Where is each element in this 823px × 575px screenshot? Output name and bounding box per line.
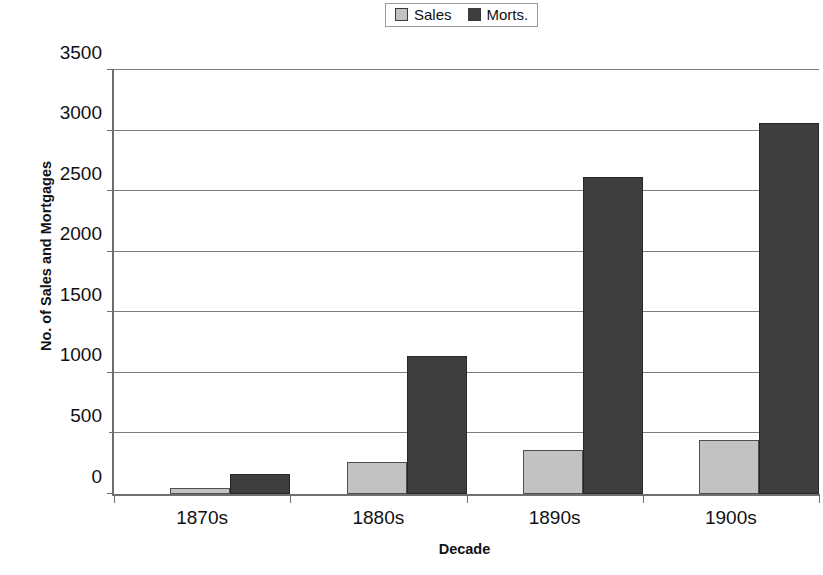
y-tick-mark [107,130,114,131]
y-tick-label: 1500 [60,284,102,303]
bar-pair [699,70,819,494]
x-tick-mark [114,494,115,503]
x-tick-label-1890s: 1890s [529,508,581,527]
bar-pair [523,70,643,494]
bar-sales-1870s [170,488,230,494]
x-tick-mark [643,494,644,503]
y-tick-label: 2500 [60,163,102,182]
dark-gray-swatch-icon [468,8,481,21]
x-tick-label-1870s: 1870s [176,508,228,527]
bar-pair [170,70,290,494]
legend-entry-sales: Sales [395,7,452,22]
y-tick-label: 0 [91,466,102,485]
y-tick-mark [107,493,114,494]
x-tick-mark [290,494,291,503]
bar-group-1870s [114,70,290,494]
bar-morts-1870s [230,474,290,494]
bar-group-1890s [467,70,643,494]
chart-legend: Sales Morts. [385,3,538,27]
bar-group-1880s [290,70,466,494]
x-axis-title: Decade [112,541,817,557]
bars-layer [114,70,819,494]
y-tick-mark [107,372,114,373]
y-tick-mark [107,251,114,252]
y-tick-label: 1000 [60,345,102,364]
legend-label-sales: Sales [414,7,452,22]
y-tick-label: 3000 [60,103,102,122]
plot-area: 0500100015002000250030003500 1870s1880s1… [112,70,819,496]
bar-sales-1900s [699,440,759,495]
y-tick-label: 2000 [60,224,102,243]
bar-morts-1890s [583,177,643,494]
y-tick-mark [107,69,114,70]
x-tick-mark [819,494,820,503]
x-tick-label-1880s: 1880s [352,508,404,527]
x-tick-mark [467,494,468,503]
y-tick-label: 3500 [60,42,102,61]
x-tick-label-1900s: 1900s [705,508,757,527]
y-axis-title: No. of Sales and Mortgages [38,106,54,406]
y-tick-label: 500 [70,405,102,424]
bar-pair [347,70,467,494]
legend-label-morts: Morts. [487,7,529,22]
bar-sales-1890s [523,450,583,494]
bar-morts-1900s [759,123,819,494]
y-tick-mark [107,190,114,191]
y-tick-mark [107,311,114,312]
legend-entry-morts: Morts. [468,7,529,22]
bar-sales-1880s [347,462,407,494]
light-gray-swatch-icon [395,8,408,21]
bar-group-1900s [643,70,819,494]
bar-chart: Sales Morts. No. of Sales and Mortgages … [0,0,823,575]
bar-morts-1880s [407,356,467,494]
